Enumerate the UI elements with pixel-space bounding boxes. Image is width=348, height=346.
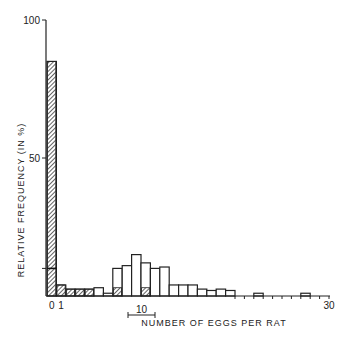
histogram-chart: 50100 0130 10 NUMBER OF EGGS PER RAT REL… — [0, 0, 348, 346]
svg-text:10: 10 — [136, 304, 148, 315]
svg-text:0: 0 — [49, 300, 55, 311]
histogram-bar — [169, 285, 178, 296]
y-axis-title: RELATIVE FREQUENCY (IN %) — [16, 123, 26, 278]
histogram-bar — [150, 268, 159, 296]
x-tick-labels: 0130 — [49, 300, 335, 311]
bars-group — [47, 61, 310, 296]
svg-text:1: 1 — [58, 300, 64, 311]
svg-text:30: 30 — [323, 300, 335, 311]
histogram-bar — [122, 266, 131, 296]
x-axis-title: NUMBER OF EGGS PER RAT — [141, 318, 286, 328]
svg-text:50: 50 — [29, 153, 41, 164]
hatched-bar — [85, 289, 93, 296]
histogram-bar — [179, 285, 188, 296]
hatched-bar — [48, 61, 56, 296]
histogram-bar — [197, 289, 206, 296]
hatched-bar — [142, 288, 150, 296]
scale-bar: 10 — [128, 304, 155, 318]
histogram-bar — [132, 255, 141, 296]
y-ticks: 50100 — [23, 15, 46, 269]
hatched-bar — [76, 289, 84, 296]
histogram-bar — [226, 290, 235, 296]
hatched-bar — [57, 285, 65, 296]
hatched-bar — [66, 289, 74, 296]
histogram-bar — [216, 289, 225, 296]
hatched-bar — [113, 288, 121, 296]
histogram-bar — [188, 285, 197, 296]
histogram-bar — [207, 290, 216, 296]
svg-text:100: 100 — [23, 15, 40, 26]
histogram-bar — [94, 288, 103, 296]
histogram-bar — [160, 267, 169, 296]
